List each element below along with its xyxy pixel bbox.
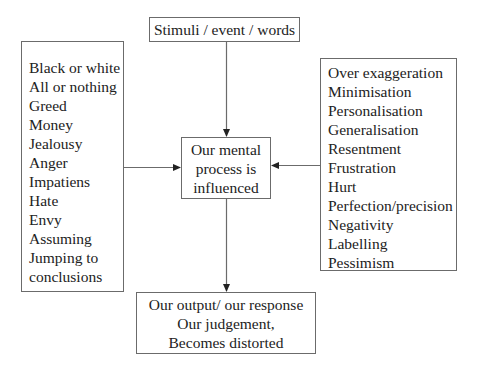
left-item: Greed (29, 96, 123, 115)
right-item: Pessimism (328, 253, 456, 272)
output-box: Our output/ our response Our judgement, … (136, 292, 316, 354)
left-item: Jealousy (29, 134, 123, 153)
stimuli-box: Stimuli / event / words (149, 17, 300, 42)
right-item: Resentment (328, 139, 456, 158)
right-item: Hurt (328, 177, 456, 196)
mental-process-box: Our mental process is influenced (181, 137, 271, 199)
right-item: Perfection/precision (328, 196, 456, 215)
right-item: Negativity (328, 215, 456, 234)
output-line: Becomes distorted (137, 333, 315, 352)
right-item: Minimisation (328, 82, 456, 101)
left-item: Black or white (29, 58, 123, 77)
left-item: Envy (29, 210, 123, 229)
output-line: Our output/ our response (137, 295, 315, 314)
left-item: Assuming (29, 229, 123, 248)
right-item: Over exaggeration (328, 63, 456, 82)
right-item: Labelling (328, 234, 456, 253)
right-item: Generalisation (328, 120, 456, 139)
output-line: Our judgement, (137, 314, 315, 333)
left-item: Jumping to (29, 248, 123, 267)
stimuli-label: Stimuli / event / words (150, 18, 299, 41)
left-item: Anger (29, 153, 123, 172)
right-item: Frustration (328, 158, 456, 177)
center-line: process is (182, 159, 270, 178)
left-item: Hate (29, 191, 123, 210)
left-factors-box: Black or white All or nothing Greed Mone… (21, 41, 124, 292)
left-item: All or nothing (29, 77, 123, 96)
center-line: Our mental (182, 140, 270, 159)
right-item: Personalisation (328, 101, 456, 120)
right-distortions-box: Over exaggeration Minimisation Personali… (320, 58, 457, 271)
center-line: influenced (182, 178, 270, 197)
left-item: conclusions (29, 267, 123, 286)
left-item: Impatiens (29, 172, 123, 191)
left-item: Money (29, 115, 123, 134)
